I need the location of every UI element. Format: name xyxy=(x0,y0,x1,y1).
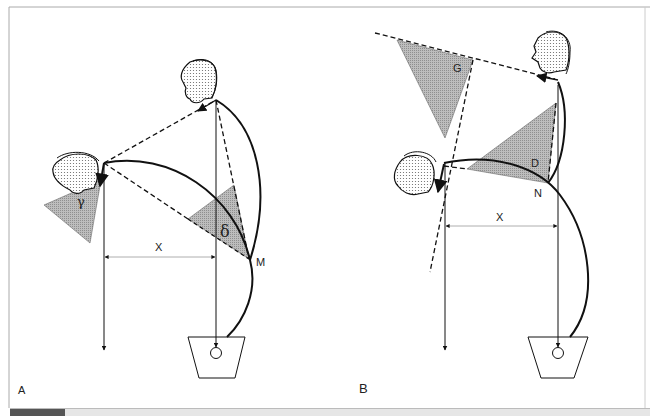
arc-a-lower xyxy=(104,161,252,337)
panel-label-a: A xyxy=(18,384,25,396)
head-upper-icon xyxy=(181,59,217,102)
caption-bar xyxy=(10,408,650,416)
label-g: G xyxy=(453,62,462,74)
label-x-a: X xyxy=(155,241,162,253)
label-gamma: γ xyxy=(77,194,85,209)
arc-b-lower xyxy=(444,159,588,337)
label-m: M xyxy=(256,256,265,268)
panel-label-b: B xyxy=(359,381,368,396)
triangle-d xyxy=(467,103,556,183)
label-delta: δ xyxy=(220,222,230,241)
head-lower-icon xyxy=(53,152,99,193)
label-n: N xyxy=(534,187,542,199)
panel-b xyxy=(375,31,588,378)
dashed-line-a-upper xyxy=(104,100,216,163)
label-x-b: X xyxy=(496,211,503,223)
triangle-delta xyxy=(188,185,249,259)
panel-a xyxy=(44,59,260,378)
head-lower-b-icon xyxy=(394,152,436,195)
label-d: D xyxy=(531,157,539,169)
caption-bar-accent xyxy=(10,409,65,416)
head-upper-b-icon xyxy=(532,31,570,74)
